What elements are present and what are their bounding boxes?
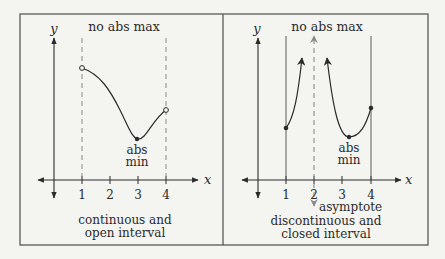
left-graph <box>38 38 198 198</box>
function-curve-left-branch <box>286 58 302 128</box>
open-endpoint <box>164 108 169 113</box>
tick-label: 1 <box>282 188 290 202</box>
closed-endpoint <box>284 126 289 131</box>
closed-endpoint <box>369 106 374 111</box>
x-axis-label: x <box>405 172 413 187</box>
caption: discontinuous and <box>271 214 382 228</box>
panel-title: no abs max <box>88 19 160 34</box>
asymptote-label: asymptote <box>319 200 382 214</box>
panel-title: no abs max <box>291 19 363 34</box>
tick-label: 3 <box>134 188 142 202</box>
caption: continuous and <box>78 213 172 227</box>
tick-label: 2 <box>310 188 318 202</box>
function-curve-right-branch <box>327 58 371 137</box>
open-endpoint <box>80 66 85 71</box>
caption: closed interval <box>281 227 371 241</box>
figure: y no abs max x 1 2 3 4 abs min continuou… <box>0 0 445 259</box>
abs-min-point <box>347 135 351 139</box>
right-graph <box>242 36 401 206</box>
x-axis-label: x <box>204 172 212 187</box>
tick-label: 2 <box>106 188 114 202</box>
tick-label: 1 <box>78 188 86 202</box>
function-curve <box>82 68 166 139</box>
abs-min-label: min <box>126 155 149 169</box>
tick-label: 4 <box>162 188 170 202</box>
y-axis-label: y <box>252 21 261 36</box>
caption: open interval <box>85 226 166 240</box>
abs-min-point <box>135 137 139 141</box>
y-axis-label: y <box>49 21 58 36</box>
abs-min-label: min <box>338 153 361 167</box>
